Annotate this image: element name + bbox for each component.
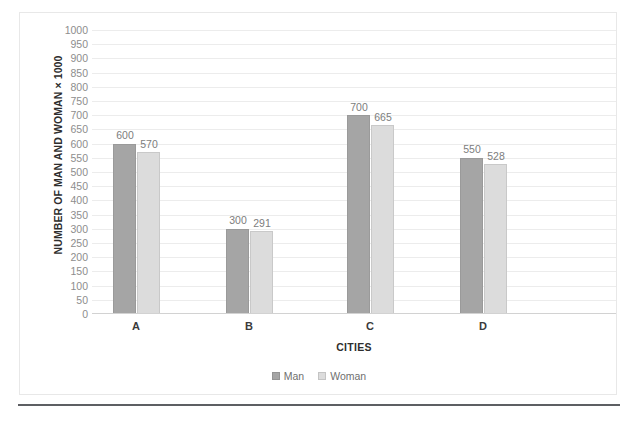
legend-swatch-icon (272, 372, 280, 380)
bottom-divider (18, 404, 620, 406)
y-axis-tick-label: 0 (44, 309, 88, 320)
x-axis-tick-label-c: C (330, 320, 410, 332)
x-axis-tick-labels: ABCD (92, 320, 616, 338)
y-axis-tick-labels: 1000950900850800750700650600550500450400… (44, 13, 88, 396)
bar-man-d[interactable] (460, 158, 483, 314)
bar-woman-b[interactable] (250, 231, 273, 314)
x-axis-tick-label-a: A (96, 320, 176, 332)
chart-container: NUMBER OF MAN AND WOMAN × 1000 100095090… (19, 12, 617, 395)
x-axis-tick-label-d: D (443, 320, 523, 332)
x-axis-title: CITIES (92, 341, 616, 353)
bar-group: 600570 (113, 30, 160, 314)
y-axis-tick-label: 700 (44, 110, 88, 121)
legend-swatch-icon (318, 372, 326, 380)
y-axis-tick-label: 850 (44, 67, 88, 78)
y-axis-tick-label: 650 (44, 124, 88, 135)
chart-legend: ManWoman (20, 370, 618, 382)
bar-man-c[interactable] (347, 115, 370, 314)
y-axis-tick-label: 50 (44, 295, 88, 306)
data-label-woman-d: 528 (474, 151, 518, 162)
data-label-woman-a: 570 (127, 139, 171, 150)
x-axis-line (92, 313, 616, 314)
legend-label: Woman (330, 370, 366, 382)
bar-woman-c[interactable] (371, 125, 394, 314)
bar-woman-d[interactable] (484, 164, 507, 314)
y-axis-tick-label: 900 (44, 53, 88, 64)
y-axis-tick-label: 100 (44, 280, 88, 291)
bar-man-b[interactable] (226, 229, 249, 314)
y-axis-tick-label: 200 (44, 252, 88, 263)
y-axis-tick-label: 250 (44, 238, 88, 249)
y-axis-tick-label: 750 (44, 96, 88, 107)
legend-item-woman[interactable]: Woman (318, 370, 366, 382)
data-label-woman-b: 291 (240, 218, 284, 229)
y-axis-tick-label: 400 (44, 195, 88, 206)
y-axis-tick-label: 1000 (44, 25, 88, 36)
y-axis-tick-label: 300 (44, 224, 88, 235)
y-axis-tick-label: 350 (44, 209, 88, 220)
y-axis-tick-label: 150 (44, 266, 88, 277)
y-axis-tick-label: 600 (44, 138, 88, 149)
y-axis-tick-label: 950 (44, 39, 88, 50)
legend-item-man[interactable]: Man (272, 370, 304, 382)
data-label-woman-c: 665 (361, 112, 405, 123)
bar-group: 550528 (460, 30, 507, 314)
y-axis-tick-label: 800 (44, 82, 88, 93)
y-axis-tick-label: 550 (44, 153, 88, 164)
y-axis-tick-label: 500 (44, 167, 88, 178)
x-axis-tick-label-b: B (209, 320, 289, 332)
plot-area: 600570300291700665550528 (92, 30, 616, 314)
bar-man-a[interactable] (113, 144, 136, 314)
bar-woman-a[interactable] (137, 152, 160, 314)
legend-label: Man (284, 370, 304, 382)
bar-group: 700665 (347, 30, 394, 314)
bar-group: 300291 (226, 30, 273, 314)
y-axis-tick-label: 450 (44, 181, 88, 192)
